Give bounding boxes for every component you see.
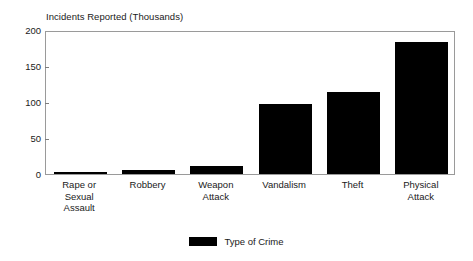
y-axis-tick-labels: 050100150200 [0,31,41,175]
x-category-label: Rape orSexualAssault [45,179,113,214]
x-category-label-line: Vandalism [250,179,318,191]
bar [327,92,380,174]
y-tick-label: 100 [3,98,41,108]
chart-legend: Type of Crime [0,236,473,247]
chart-axis-title: Incidents Reported (Thousands) [46,11,183,22]
y-tick-label: 150 [3,62,41,72]
legend-label: Type of Crime [224,236,283,247]
x-category-label-line: Theft [318,179,386,191]
y-tick-mark [45,139,49,140]
legend-color-swatch [189,237,217,246]
plot-area [45,31,455,175]
y-tick-label: 200 [3,26,41,36]
bar [259,104,312,174]
y-tick-mark [45,67,49,68]
x-category-label: PhysicalAttack [387,179,455,202]
x-category-label: Vandalism [250,179,318,191]
y-tick-label: 50 [3,134,41,144]
x-category-label-line: Robbery [113,179,181,191]
x-category-label-line: Rape or [45,179,113,191]
x-category-label: Theft [318,179,386,191]
bar [395,42,448,174]
bar [54,172,107,174]
x-axis-category-labels: Rape orSexualAssaultRobberyWeaponAttackV… [45,179,455,227]
bar-chart-figure: Incidents Reported (Thousands) 050100150… [0,0,473,261]
x-category-label-line: Attack [182,191,250,203]
y-tick-label: 0 [3,170,41,180]
bar [190,166,243,174]
bars-container [46,32,454,174]
x-category-label-line: Sexual [45,191,113,203]
bar [122,170,175,174]
x-category-label-line: Attack [387,191,455,203]
x-category-label-line: Assault [45,202,113,214]
x-category-label-line: Weapon [182,179,250,191]
x-category-label: Robbery [113,179,181,191]
y-tick-mark [45,103,49,104]
x-category-label: WeaponAttack [182,179,250,202]
x-category-label-line: Physical [387,179,455,191]
